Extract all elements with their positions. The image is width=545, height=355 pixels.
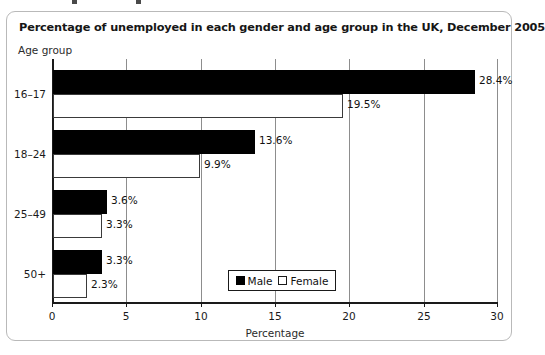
x-tick-0: [52, 302, 53, 307]
x-tick-label-15: 15: [268, 310, 281, 322]
x-tick-5: [126, 302, 127, 307]
legend-swatch-male-icon: [236, 276, 245, 285]
bar-value-female-16-17: 19.5%: [347, 98, 380, 110]
plot-area: 0 5 10 15 20 25 30 28.4% 19.5% 16–17 13.…: [52, 59, 498, 306]
category-label-16-17: 16–17: [14, 88, 46, 100]
gridline-20: [349, 59, 350, 302]
figure-panel: Percentage of unemployed in each gender …: [6, 11, 512, 341]
gridline-30: [497, 59, 498, 302]
bar-male-18-24: [53, 130, 255, 154]
bar-female-18-24: [53, 154, 200, 178]
x-tick-label-5: 5: [123, 310, 130, 322]
legend-entry-female: Female: [278, 275, 328, 287]
bar-female-16-17: [53, 94, 343, 118]
x-tick-label-10: 10: [194, 310, 207, 322]
x-axis-title: Percentage: [245, 327, 304, 339]
bar-value-male-25-49: 3.6%: [111, 194, 138, 206]
bar-male-16-17: [53, 70, 475, 94]
y-axis-title: Age group: [18, 44, 72, 56]
chart-legend: Male Female: [228, 270, 336, 291]
bar-female-50-plus: [53, 274, 87, 298]
gridline-25: [424, 59, 425, 302]
legend-label-female: Female: [290, 275, 328, 287]
bar-value-female-18-24: 9.9%: [204, 158, 231, 170]
chart-title: Percentage of unemployed in each gender …: [19, 21, 545, 34]
x-tick-20: [349, 302, 350, 307]
x-tick-15: [275, 302, 276, 307]
x-tick-25: [424, 302, 425, 307]
category-label-50-plus: 50+: [24, 268, 46, 280]
page-text-artifact: [0, 0, 524, 11]
x-tick-label-20: 20: [342, 310, 355, 322]
legend-label-male: Male: [248, 275, 273, 287]
bar-male-50-plus: [53, 250, 102, 274]
bar-value-female-50-plus: 2.3%: [91, 278, 118, 290]
bar-value-male-18-24: 13.6%: [259, 134, 292, 146]
category-label-18-24: 18–24: [14, 148, 46, 160]
bar-value-female-25-49: 3.3%: [106, 218, 133, 230]
x-tick-label-25: 25: [417, 310, 430, 322]
category-label-25-49: 25–49: [14, 208, 46, 220]
bar-female-25-49: [53, 214, 102, 238]
x-tick-10: [201, 302, 202, 307]
x-tick-label-30: 30: [490, 310, 503, 322]
bar-value-male-50-plus: 3.3%: [106, 254, 133, 266]
bar-value-male-16-17: 28.4%: [479, 74, 512, 86]
bar-male-25-49: [53, 190, 107, 214]
x-tick-label-0: 0: [49, 310, 56, 322]
legend-entry-male: Male: [236, 275, 273, 287]
legend-swatch-female-icon: [278, 276, 287, 285]
x-tick-30: [497, 302, 498, 307]
